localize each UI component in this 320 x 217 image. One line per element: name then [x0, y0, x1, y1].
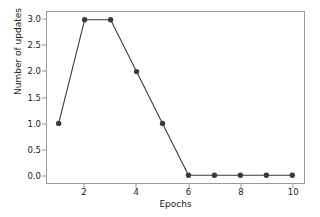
- data-point: [264, 173, 269, 178]
- series-markers: [56, 17, 295, 178]
- x-axis-tick-label: 2: [81, 188, 86, 197]
- y-axis-tick-label: 3.0: [27, 15, 41, 24]
- data-point: [56, 121, 61, 126]
- y-axis-tick-label: 1.0: [27, 119, 41, 128]
- y-axis-tick-label: 1.5: [27, 93, 41, 102]
- data-point: [238, 173, 243, 178]
- x-axis-tick-mark: [136, 184, 137, 188]
- y-axis-tick-mark: [42, 45, 46, 46]
- y-axis-tick-mark: [42, 18, 46, 19]
- data-point: [212, 173, 217, 178]
- x-axis-tick-mark: [293, 184, 294, 188]
- x-axis-tick-label: 4: [134, 188, 139, 197]
- y-axis-tick-mark: [42, 149, 46, 150]
- x-axis-tick-label: 8: [238, 188, 243, 197]
- x-axis-label: Epochs: [46, 200, 305, 209]
- y-axis-tick-mark: [42, 71, 46, 72]
- plot-area: [46, 11, 305, 184]
- y-axis-tick-label: 2.0: [27, 67, 41, 76]
- y-axis-tick-label: 2.5: [27, 41, 41, 50]
- y-axis-label: Number of updates: [14, 0, 23, 117]
- data-point: [82, 17, 87, 22]
- x-axis-tick-mark: [240, 184, 241, 188]
- x-axis-tick-label: 6: [186, 188, 191, 197]
- x-axis-tick-mark: [83, 184, 84, 188]
- y-axis-tick-label: 0.0: [27, 172, 41, 181]
- data-point: [160, 121, 165, 126]
- data-point: [186, 173, 191, 178]
- x-axis-tick-label: 10: [288, 188, 299, 197]
- y-axis-tick-label: 0.5: [27, 146, 41, 155]
- chart-figure: 0.00.51.01.52.02.53.0 Epochs Number of u…: [0, 0, 320, 217]
- data-point: [290, 173, 295, 178]
- y-axis-tick-mark: [42, 123, 46, 124]
- data-series-line: [47, 12, 304, 183]
- y-axis-tick-mark: [42, 97, 46, 98]
- data-point: [134, 69, 139, 74]
- x-axis-tick-mark: [188, 184, 189, 188]
- y-axis-tick-mark: [42, 176, 46, 177]
- series-polyline: [59, 20, 293, 175]
- data-point: [108, 17, 113, 22]
